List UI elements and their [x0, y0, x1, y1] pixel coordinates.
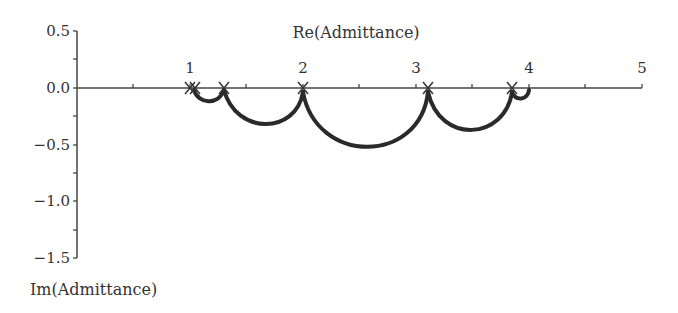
- x-axis-label: Re(Admittance): [292, 23, 419, 42]
- y-tick-label: 0.5: [46, 22, 70, 40]
- x-tick-label: 4: [524, 59, 534, 77]
- y-tick-label: −0.5: [34, 136, 70, 154]
- admittance-locus: [194, 90, 529, 147]
- y-axis-label: Im(Admittance): [30, 280, 157, 299]
- x-tick-label: 1: [185, 59, 195, 77]
- chart: 0.5 0.0 −0.5 −1.0 −1.5 1 2 3 4 5 Re(Admi…: [0, 0, 678, 313]
- x-tick-label: 2: [298, 59, 308, 77]
- x-tick-label: 5: [637, 59, 647, 77]
- x-tick-label: 3: [411, 59, 421, 77]
- y-tick-label: −1.0: [34, 192, 70, 210]
- y-tick-label: 0.0: [46, 79, 70, 97]
- y-tick-label: −1.5: [34, 249, 70, 267]
